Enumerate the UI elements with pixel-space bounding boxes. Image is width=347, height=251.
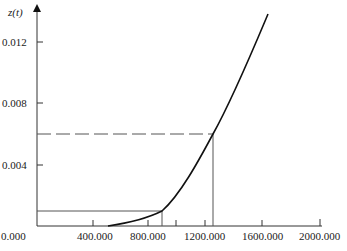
y-tick-label: 0.008 xyxy=(2,97,27,109)
x-tick-label: 0.000 xyxy=(1,230,26,242)
series-curve xyxy=(108,14,268,226)
x-tick-label: 1600.000 xyxy=(242,230,284,242)
y-tick-label: 0.012 xyxy=(2,36,27,48)
chart: z(t) 0.012 0.008 0.004 0.000 400.000 800… xyxy=(0,0,347,251)
y-axis-title: z(t) xyxy=(7,6,23,19)
x-tick-label: 400.000 xyxy=(77,230,113,242)
y-axis-arrow-icon xyxy=(33,4,41,12)
x-tick-label: 2000.000 xyxy=(299,230,341,242)
y-tick-label: 0.004 xyxy=(2,159,27,171)
x-tick-label: 800.000 xyxy=(130,230,166,242)
x-tick-label: 1200.000 xyxy=(184,230,226,242)
